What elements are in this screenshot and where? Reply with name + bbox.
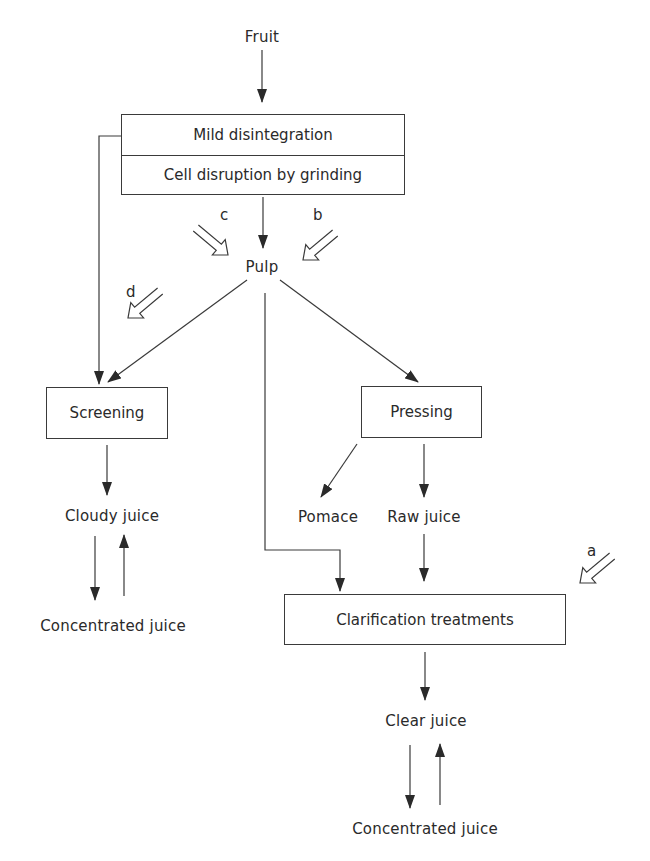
arrow-disintegration-to-screening [99, 136, 122, 384]
node-pulp: Pulp [246, 258, 279, 276]
node-cell-disruption: Cell disruption by grinding [122, 155, 404, 195]
node-cloudy-juice: Cloudy juice [65, 507, 159, 525]
node-screening: Screening [46, 387, 168, 439]
node-raw-juice: Raw juice [387, 508, 460, 526]
enzyme-arrow-c-icon [189, 220, 234, 262]
node-disintegration-box: Mild disintegration Cell disruption by g… [121, 114, 405, 195]
arrow-pressing-to-pomace [321, 444, 357, 497]
enzyme-label-a: a [587, 542, 596, 560]
node-pressing: Pressing [361, 386, 482, 438]
node-clear-juice: Clear juice [385, 712, 467, 730]
node-concentrated-juice-right: Concentrated juice [352, 820, 498, 838]
node-mild-disintegration: Mild disintegration [122, 115, 404, 155]
arrow-pulp-to-clarification [265, 293, 340, 591]
enzyme-arrow-b-icon [297, 225, 342, 267]
node-pomace: Pomace [298, 508, 358, 526]
enzyme-label-c: c [220, 206, 228, 224]
node-clarification-treatments: Clarification treatments [284, 594, 566, 645]
arrow-pulp-to-pressing [280, 280, 418, 382]
enzyme-label-b: b [313, 206, 323, 224]
node-fruit: Fruit [245, 28, 279, 46]
node-concentrated-juice-left: Concentrated juice [40, 617, 186, 635]
enzyme-label-d: d [126, 283, 136, 301]
